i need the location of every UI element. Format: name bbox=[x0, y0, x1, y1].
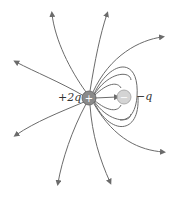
minus-sign: − bbox=[120, 92, 128, 103]
inner-field-lines bbox=[94, 67, 138, 127]
negative-charge: − bbox=[117, 90, 131, 104]
negative-charge-label: −q bbox=[136, 90, 152, 103]
positive-charge-label: +2q bbox=[58, 91, 81, 104]
positive-charge: + bbox=[82, 91, 96, 105]
plus-sign: + bbox=[85, 93, 93, 104]
